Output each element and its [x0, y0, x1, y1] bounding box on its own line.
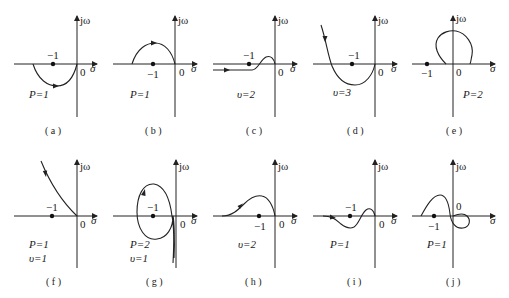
j-omega-label: jω [79, 14, 90, 26]
origin-label: 0 [456, 200, 462, 212]
param-label: P=1 [426, 238, 447, 250]
sigma-label: σ [191, 62, 197, 74]
panel-caption: ( i ) [347, 276, 361, 288]
nyquist-curve [132, 43, 175, 64]
direction-arrow-icon [323, 36, 328, 42]
minus-one-label: −1 [345, 201, 357, 213]
param-label: P=1 [28, 88, 49, 100]
minus-one-label: −1 [46, 201, 58, 213]
sigma-label: σ [191, 214, 197, 226]
direction-arrow-icon [224, 68, 230, 73]
panel-h: −1 0 σ jω υ=2 ( h ) [213, 160, 297, 288]
param-label: υ=3 [333, 86, 351, 98]
critical-point [257, 214, 261, 218]
minus-one-label: −1 [243, 49, 255, 61]
critical-point [51, 62, 55, 66]
panel-f: −1 0 σ jω P=1 υ=1 ( f ) [14, 160, 97, 288]
panel-caption: ( h ) [245, 276, 262, 288]
origin-label: 0 [378, 66, 384, 78]
panel-caption: ( f ) [46, 276, 61, 288]
panel-caption: ( d ) [347, 125, 364, 137]
param-label-p: P=2 [129, 238, 150, 250]
j-omega-label: jω [455, 160, 466, 172]
sigma-label: σ [391, 214, 397, 226]
panel-a: −1 0 σ jω P=1 ( a ) [14, 14, 97, 137]
minus-one-label: −1 [147, 201, 159, 213]
panel-caption: ( g ) [146, 276, 163, 288]
critical-point [432, 214, 436, 218]
nyquist-plot-figure: −1 0 σ jω P=1 ( a ) −1 0 σ jω P=1 ( b ) … [0, 0, 509, 298]
j-omega-label: jω [277, 14, 288, 26]
sigma-label: σ [291, 214, 297, 226]
param-label: P=2 [462, 88, 483, 100]
param-label-v: υ=1 [29, 252, 47, 264]
direction-arrow-icon [141, 189, 146, 196]
minus-one-label: −1 [147, 68, 159, 80]
critical-point [350, 62, 354, 66]
j-omega-label: jω [377, 160, 388, 172]
nyquist-curve [33, 64, 77, 86]
minus-one-label: −1 [254, 220, 266, 232]
minus-one-label: −1 [47, 49, 59, 61]
j-omega-label: jω [277, 160, 288, 172]
origin-label: 0 [179, 66, 185, 78]
param-label: P=1 [329, 238, 350, 250]
panel-d: −1 0 σ jω υ=3 ( d ) [313, 14, 397, 137]
origin-label: 0 [279, 218, 285, 230]
sigma-label: σ [290, 62, 296, 74]
j-omega-label: jω [377, 14, 388, 26]
origin-label: 0 [80, 218, 86, 230]
origin-label: 0 [80, 66, 86, 78]
direction-arrow-icon [330, 215, 336, 220]
sigma-label: σ [490, 62, 496, 74]
param-label-v: υ=1 [130, 252, 148, 264]
origin-label: 0 [278, 66, 284, 78]
nyquist-curve [222, 196, 275, 216]
param-label: υ=2 [237, 88, 255, 100]
panel-caption: ( j ) [446, 276, 460, 288]
nyquist-loop [436, 31, 472, 64]
sigma-label: σ [90, 62, 96, 74]
param-label: P=1 [129, 88, 150, 100]
critical-point [348, 214, 352, 218]
minus-one-label: −1 [421, 67, 433, 79]
sigma-label: σ [391, 62, 397, 74]
panel-e: −1 0 σ jω P=2 ( e ) [412, 12, 496, 137]
critical-point [50, 214, 54, 218]
critical-point [151, 62, 155, 66]
origin-label: 0 [379, 218, 385, 230]
j-omega-label: jω [178, 160, 189, 172]
origin-label: 0 [456, 66, 462, 78]
minus-one-label: −1 [428, 220, 440, 232]
j-omega-label: jω [177, 14, 188, 26]
critical-point [425, 62, 429, 66]
critical-point [151, 214, 155, 218]
panel-c: −1 0 σ jω υ=2 ( c ) [213, 14, 297, 137]
j-omega-label: jω [79, 160, 90, 172]
minus-one-label: −1 [348, 49, 360, 61]
critical-point [247, 62, 251, 66]
panel-j: −1 0 σ jω P=1 ( j ) [412, 160, 496, 288]
origin-label: 0 [180, 218, 186, 230]
panel-i: −1 0 σ jω P=1 ( i ) [313, 160, 397, 288]
panel-caption: ( e ) [446, 125, 462, 137]
param-label-p: P=1 [28, 238, 49, 250]
direction-arrow-icon [53, 84, 59, 89]
param-label: υ=2 [238, 238, 256, 250]
panel-caption: ( c ) [246, 125, 262, 137]
direction-arrow-icon [43, 171, 47, 178]
sigma-label: σ [490, 214, 496, 226]
panel-caption: ( b ) [145, 125, 162, 137]
panel-g: −1 0 σ jω P=2 υ=1 ( g ) [113, 160, 197, 288]
sigma-label: σ [91, 214, 97, 226]
panel-caption: ( a ) [45, 125, 61, 137]
j-omega-label: jω [455, 12, 466, 24]
panel-b: −1 0 σ jω P=1 ( b ) [113, 14, 197, 137]
direction-arrow-icon [151, 41, 157, 46]
